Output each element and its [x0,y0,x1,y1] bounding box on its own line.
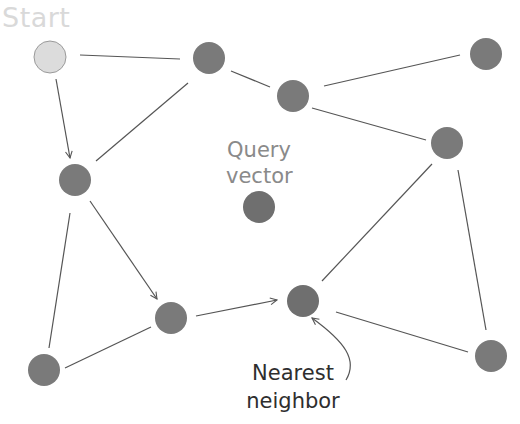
edge-nearest-n8 [336,312,468,352]
nearest-label-line2: neighbor [236,387,350,415]
nearest-node [287,285,319,317]
graph-node [155,302,187,334]
edge-start-n1 [80,55,180,59]
start-node [34,41,66,73]
edge-n6-n7 [65,327,151,368]
graph-node [431,127,463,159]
query-label-line2: vector [226,163,292,189]
graph-node [28,354,60,386]
edge-n4-nearest [322,164,432,281]
nodes [28,38,507,386]
edge-n2-n3 [324,55,460,86]
edge-n4-n8 [458,170,486,330]
graph-node [193,42,225,74]
nearest-label: Nearest neighbor [236,359,350,415]
edge-n5-n6 [90,201,157,299]
start-label: Start [2,2,70,33]
edge-n1-n2 [231,71,270,87]
edge-start-n5 [56,79,70,158]
query-node [243,191,275,223]
edge-n6-nearest [196,300,277,316]
query-label-line1: Query [226,137,292,163]
graph-node [277,80,309,112]
edge-n2-n4 [312,108,426,140]
graph-node [475,340,507,372]
graph-node [59,164,91,196]
graph-node [470,38,502,70]
edge-n5-n7 [49,213,70,348]
query-label: Query vector [226,137,292,189]
edge-n1-n5 [96,83,188,161]
nearest-label-line1: Nearest [236,359,350,387]
